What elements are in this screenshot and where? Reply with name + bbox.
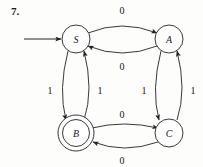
state-label-s: S xyxy=(74,34,79,45)
transition-label-s-to-b: 1 xyxy=(48,85,53,96)
transition-b-to-c: 0 xyxy=(92,109,158,128)
fsm-figure: 7. 0 0 1 1 1 xyxy=(0,0,203,167)
transition-s-to-b: 1 xyxy=(48,51,69,120)
state-label-b: B xyxy=(73,128,79,139)
transition-label-c-to-a: 1 xyxy=(191,85,196,96)
transition-a-to-s: 0 xyxy=(88,46,157,72)
fsm-diagram: 0 0 1 1 1 1 0 0 xyxy=(0,0,203,167)
transition-label-b-to-c: 0 xyxy=(120,109,125,120)
state-node-a[interactable]: A xyxy=(155,25,183,53)
transition-a-to-c: 1 xyxy=(142,51,162,120)
transition-label-s-to-a: 0 xyxy=(120,5,125,16)
state-node-c[interactable]: C xyxy=(155,119,183,147)
state-node-b[interactable]: B xyxy=(58,115,94,151)
transition-s-to-a: 0 xyxy=(88,5,157,33)
transition-c-to-a: 1 xyxy=(177,51,196,120)
transition-label-a-to-c: 1 xyxy=(142,85,147,96)
state-label-c: C xyxy=(166,128,173,139)
transition-c-to-b: 0 xyxy=(93,142,158,166)
state-node-s[interactable]: S xyxy=(62,25,90,53)
transition-b-to-s: 1 xyxy=(84,51,103,120)
transition-label-a-to-s: 0 xyxy=(120,61,125,72)
state-label-a: A xyxy=(165,34,173,45)
transition-label-c-to-b: 0 xyxy=(120,155,125,166)
transition-label-b-to-s: 1 xyxy=(98,85,103,96)
